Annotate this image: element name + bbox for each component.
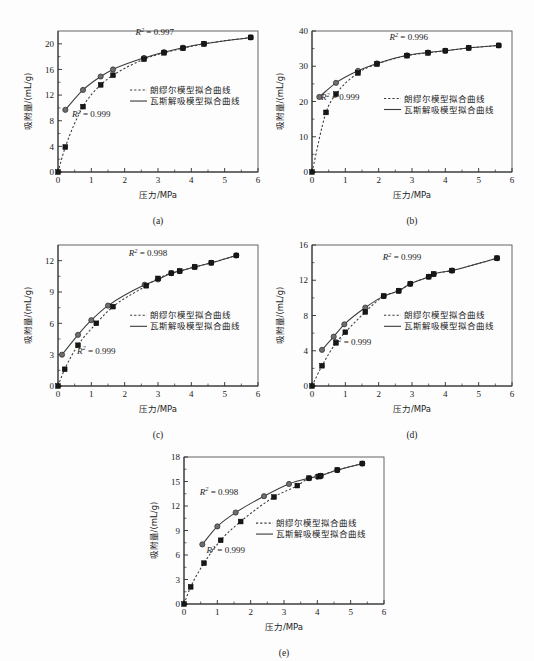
data-point (233, 510, 238, 515)
data-point (63, 107, 68, 112)
data-point (200, 542, 205, 547)
r-squared-annotation: R2 = 0.999 (71, 108, 111, 119)
data-point (238, 519, 243, 524)
svg-text:3: 3 (176, 575, 181, 585)
svg-text:3: 3 (410, 175, 415, 185)
data-point (272, 495, 277, 500)
data-point (286, 481, 291, 486)
x-axis-label: 压力/MPa (265, 622, 303, 632)
svg-text:6: 6 (256, 389, 261, 399)
r-squared-annotation: R2 = 0.999 (382, 251, 422, 262)
panel-caption: (a) (153, 216, 164, 227)
data-point (177, 269, 182, 274)
data-point (381, 294, 386, 299)
r-squared-annotation: R2 = 0.997 (134, 26, 174, 37)
chart-panel-a: 0123456048121620R2 = 0.997R2 = 0.999朗缪尔模… (20, 14, 270, 226)
r-squared-annotation: R2 = 0.998 (128, 247, 168, 258)
data-point (333, 80, 338, 85)
r-squared-annotation: R2 = 0.999 (332, 336, 372, 347)
svg-text:0: 0 (182, 607, 187, 617)
data-point (98, 82, 103, 87)
data-point (188, 584, 193, 589)
data-point (181, 46, 186, 51)
data-point (310, 170, 315, 175)
svg-text:8: 8 (304, 311, 309, 321)
data-point (426, 50, 431, 55)
panel-caption: (b) (406, 216, 417, 227)
legend: 朗缪尔模型拟合曲线瓦斯解吸模型拟合曲线 (384, 310, 494, 331)
legend: 朗缪尔模型拟合曲线瓦斯解吸模型拟合曲线 (130, 310, 240, 331)
data-point (80, 87, 85, 92)
svg-text:4: 4 (50, 142, 55, 152)
svg-text:2: 2 (248, 607, 253, 617)
svg-text:3: 3 (156, 389, 161, 399)
data-point (343, 330, 348, 335)
svg-text:4: 4 (443, 175, 448, 185)
legend-label: 瓦斯解吸模型拟合曲线 (150, 96, 240, 106)
svg-text:5: 5 (476, 389, 481, 399)
data-point (75, 332, 80, 337)
svg-text:9: 9 (176, 526, 181, 536)
data-point (426, 274, 431, 279)
data-point (396, 288, 401, 293)
data-point (110, 67, 115, 72)
svg-text:40: 40 (299, 26, 309, 36)
svg-text:6: 6 (256, 175, 261, 185)
svg-text:5: 5 (222, 175, 227, 185)
svg-text:3: 3 (410, 389, 415, 399)
data-point (450, 268, 455, 273)
data-point (156, 276, 161, 281)
svg-text:6: 6 (176, 550, 181, 560)
data-point (307, 476, 312, 481)
data-point (295, 483, 300, 488)
svg-text:16: 16 (45, 65, 55, 75)
svg-text:1: 1 (215, 607, 220, 617)
svg-text:2: 2 (376, 175, 381, 185)
svg-text:4: 4 (315, 607, 320, 617)
data-point (202, 41, 207, 46)
legend: 朗缪尔模型拟合曲线瓦斯解吸模型拟合曲线 (384, 94, 494, 115)
r-squared-annotation: R2 = 0.998 (199, 485, 239, 496)
data-point (466, 46, 471, 51)
svg-text:30: 30 (299, 61, 309, 71)
data-point (443, 48, 448, 53)
svg-text:6: 6 (510, 389, 515, 399)
data-point (56, 170, 61, 175)
data-point (182, 602, 187, 607)
data-point (56, 384, 61, 389)
chart-panel-b: 0123456010203040R2 = 0.996R2 = 0.999朗缪尔模… (272, 14, 524, 226)
data-point (496, 43, 501, 48)
svg-text:10: 10 (299, 132, 309, 142)
svg-text:0: 0 (304, 167, 309, 177)
legend-label: 朗缪尔模型拟合曲线 (276, 518, 357, 528)
legend: 朗缪尔模型拟合曲线瓦斯解吸模型拟合曲线 (256, 518, 366, 539)
svg-text:12: 12 (45, 256, 54, 266)
data-point (342, 322, 347, 327)
data-point (63, 145, 68, 150)
data-point (310, 384, 315, 389)
y-axis-label: 吸附量/(mL/g) (23, 73, 33, 131)
svg-text:18: 18 (171, 452, 181, 462)
data-point (59, 352, 64, 357)
data-point (318, 473, 323, 478)
svg-text:3: 3 (282, 607, 287, 617)
x-axis-label: 压力/MPa (139, 404, 177, 414)
chart-panel-e: 01234560369121518R2 = 0.998R2 = 0.999朗缪尔… (146, 440, 396, 658)
y-axis-label: 吸附量/(mL/g) (275, 73, 285, 131)
svg-text:2: 2 (122, 175, 127, 185)
y-axis-label: 吸附量/(mL/g) (149, 502, 159, 560)
data-point (142, 57, 147, 62)
legend-label: 朗缪尔模型拟合曲线 (404, 310, 485, 320)
svg-text:9: 9 (50, 287, 55, 297)
svg-text:6: 6 (382, 607, 387, 617)
data-point (408, 281, 413, 286)
data-point (94, 321, 99, 326)
data-point (169, 271, 174, 276)
data-point (248, 35, 253, 40)
legend-label: 瓦斯解吸模型拟合曲线 (404, 321, 494, 331)
data-point (405, 53, 410, 58)
r-squared-annotation: R2 = 0.999 (205, 544, 245, 555)
data-point (89, 318, 94, 323)
svg-text:5: 5 (476, 175, 481, 185)
data-point (335, 468, 340, 473)
